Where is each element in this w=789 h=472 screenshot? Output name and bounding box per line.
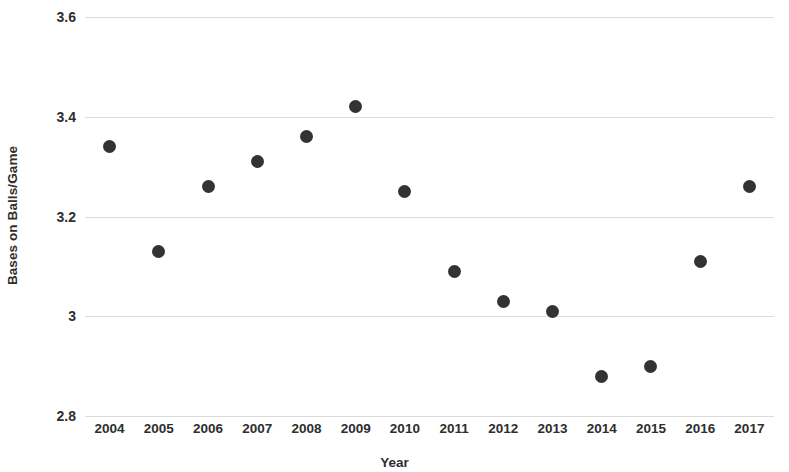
y-tick-label: 3.6 [6, 9, 76, 25]
gridline [85, 17, 774, 18]
data-point [546, 305, 559, 318]
x-tick-label: 2017 [719, 421, 779, 436]
data-point [251, 155, 264, 168]
gridline [85, 217, 774, 218]
data-point [398, 185, 411, 198]
scatter-chart: Bases on Balls/Game 2.833.23.43.6 200420… [0, 0, 789, 472]
gridline [85, 316, 774, 317]
y-tick-label: 3.2 [6, 209, 76, 225]
data-point [694, 255, 707, 268]
data-point [595, 370, 608, 383]
data-point [497, 295, 510, 308]
x-axis-title: Year [0, 455, 789, 470]
gridline [85, 416, 774, 417]
gridline [85, 117, 774, 118]
data-point [103, 140, 116, 153]
plot-area [85, 17, 774, 416]
data-point [448, 265, 461, 278]
data-point [644, 360, 657, 373]
y-tick-label: 3 [6, 308, 76, 324]
data-point [743, 180, 756, 193]
y-tick-label: 2.8 [6, 408, 76, 424]
data-point [152, 245, 165, 258]
data-point [300, 130, 313, 143]
data-point [202, 180, 215, 193]
data-point [349, 100, 362, 113]
y-tick-label: 3.4 [6, 109, 76, 125]
